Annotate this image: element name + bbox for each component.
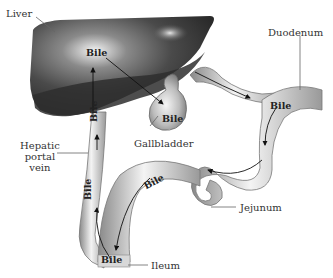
bile-label-ileum: Bile: [101, 254, 122, 265]
hepatic-line-1: Hepatic: [20, 140, 60, 151]
bile-label-portal-lower: Bile: [82, 179, 93, 200]
bile-label-portal-upper: Bile: [88, 101, 99, 122]
label-gallbladder: Gallbladder: [134, 138, 193, 149]
label-hepatic-portal-vein: Hepatic portal vein: [20, 140, 60, 173]
bile-label-duodenum: Bile: [270, 100, 291, 111]
bile-label-liver: Bile: [86, 47, 107, 58]
label-jejunum: Jejunum: [240, 202, 282, 213]
bile-circulation-diagram: Liver Duodenum Gallbladder Hepatic porta…: [0, 0, 333, 278]
label-duodenum: Duodenum: [268, 27, 323, 38]
label-ileum: Ileum: [151, 260, 180, 271]
hepatic-line-2: portal: [20, 151, 60, 162]
duodenum-intestine: [191, 87, 322, 206]
bile-label-gallbladder: Bile: [162, 113, 183, 124]
hepatic-line-3: vein: [20, 162, 60, 173]
liver-shape: [30, 16, 214, 116]
label-liver: Liver: [6, 8, 32, 19]
